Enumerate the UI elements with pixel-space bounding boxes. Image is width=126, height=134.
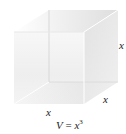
label-edge-width: x (46, 107, 51, 118)
formula-exponent: 3 (79, 118, 83, 126)
label-edge-depth: x (103, 94, 108, 105)
formula-equals: = (63, 119, 75, 131)
formula-lhs: V (56, 119, 63, 131)
label-edge-height: x (119, 40, 124, 51)
cube-diagram (0, 0, 126, 134)
volume-formula: V = x3 (56, 120, 83, 131)
